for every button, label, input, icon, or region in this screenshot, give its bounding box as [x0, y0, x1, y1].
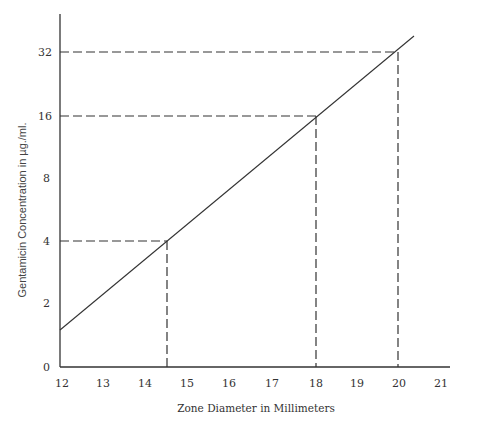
svg-text:8: 8: [43, 172, 50, 185]
svg-text:18: 18: [309, 377, 323, 390]
chart: 0 2 4 8 16 32 12 13 14 15 16 17 18 19 20…: [0, 0, 478, 424]
x-tick-labels: 12 13 14 15 16 17 18 19 20 21: [55, 377, 448, 390]
svg-text:2: 2: [43, 297, 50, 310]
svg-text:13: 13: [96, 377, 110, 390]
svg-text:20: 20: [392, 377, 406, 390]
svg-text:32: 32: [38, 46, 52, 59]
svg-text:15: 15: [180, 377, 194, 390]
svg-text:12: 12: [55, 377, 69, 390]
svg-text:19: 19: [350, 377, 364, 390]
y-tick-labels: 0 2 4 8 16 32: [38, 46, 52, 374]
svg-text:16: 16: [222, 377, 236, 390]
y-axis-title: Gentamicin Concentration in µg./ml.: [16, 122, 28, 297]
regression-line: [60, 36, 414, 330]
svg-text:16: 16: [38, 110, 52, 123]
svg-text:21: 21: [434, 377, 448, 390]
svg-text:14: 14: [138, 377, 152, 390]
svg-text:17: 17: [265, 377, 279, 390]
svg-text:0: 0: [43, 361, 50, 374]
x-axis-title: Zone Diameter in Millimeters: [177, 402, 335, 414]
svg-text:4: 4: [43, 235, 50, 248]
reference-lines: [60, 52, 398, 367]
